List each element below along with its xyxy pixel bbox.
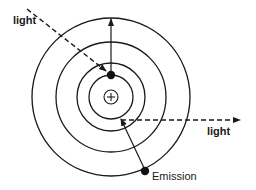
outgoing-light-label: light — [207, 126, 230, 137]
electron-absorbing-icon — [107, 71, 115, 79]
nucleus-icon — [104, 90, 118, 104]
atom-diagram — [0, 0, 256, 190]
emission-label: Emission — [152, 171, 197, 182]
incoming-light-arrow — [27, 9, 106, 71]
incoming-light-label: light — [13, 15, 36, 26]
electron-emitting-icon — [141, 167, 149, 175]
emission-arrow — [121, 119, 145, 170]
